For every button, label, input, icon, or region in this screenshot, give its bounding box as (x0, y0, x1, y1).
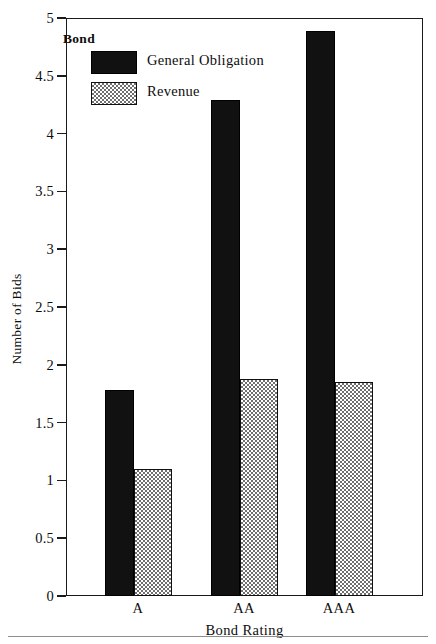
bar-revenue-AAA (335, 382, 373, 596)
x-tick-label-A: A (133, 600, 144, 617)
bar-general-obligation-AAA (306, 31, 335, 596)
legend-swatch-revenue (91, 82, 137, 105)
bars-layer (0, 0, 436, 644)
legend-label-general-obligation: General Obligation (147, 52, 264, 69)
x-tick-label-AAA: AAA (323, 600, 356, 617)
bar-general-obligation-AA (211, 100, 240, 596)
bar-revenue-AA (240, 379, 278, 596)
bar-chart-figure: 5 4.5 4 3.5 3 2.5 2 1.5 1 0.5 0 Number o… (0, 0, 436, 644)
footer-divider (8, 636, 428, 637)
x-tick-label-AA: AA (233, 600, 255, 617)
bar-revenue-A (134, 469, 172, 596)
bar-general-obligation-A (105, 390, 134, 596)
x-axis: A AA AAA (66, 600, 423, 624)
legend-label-revenue: Revenue (147, 83, 200, 100)
legend-title: Bond (63, 31, 95, 47)
legend-swatch-general-obligation (91, 51, 137, 74)
